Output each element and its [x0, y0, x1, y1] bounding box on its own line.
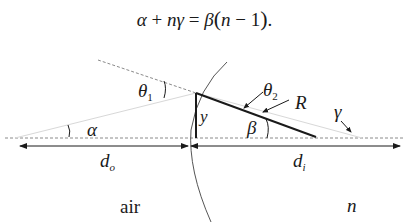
alpha-label: α: [87, 119, 98, 140]
height-label: y: [198, 107, 208, 126]
beta-angle-arc: [266, 119, 268, 138]
theta1-angle-arc: [164, 81, 166, 98]
refraction-diagram: θ1 θ2 R γ α β y do di air n: [0, 0, 409, 222]
gamma-label: γ: [334, 101, 342, 122]
air-medium-label: air: [120, 196, 141, 217]
theta2-pointer: [244, 92, 263, 108]
object-distance-label: do: [100, 150, 116, 173]
alpha-angle-arc: [68, 125, 70, 137]
image-distance-label: di: [293, 150, 306, 173]
radius-label: R: [294, 92, 307, 113]
theta1-label: θ1: [138, 80, 153, 103]
n-medium-label: n: [347, 195, 357, 216]
beta-label: β: [246, 117, 257, 138]
theta2-label: θ2: [263, 79, 278, 102]
gamma-pointer: [341, 121, 351, 132]
incident-ray: [15, 93, 196, 138]
refracting-surface-arc: [191, 62, 227, 222]
